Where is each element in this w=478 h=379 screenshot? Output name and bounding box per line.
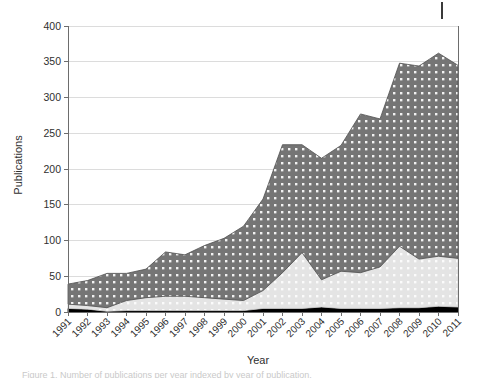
x-tick-label: 1991 bbox=[50, 315, 74, 339]
y-tick-label: 200 bbox=[43, 163, 61, 175]
y-tick-label: 400 bbox=[43, 20, 61, 32]
x-tick-label: 2002 bbox=[264, 315, 288, 339]
figure-container: 050100150200250300350400 199119921993199… bbox=[0, 0, 478, 379]
x-tick-group: 1991199219931994199519961997199819992000… bbox=[50, 312, 464, 339]
x-tick-label: 2011 bbox=[440, 315, 463, 338]
x-tick-label: 2007 bbox=[362, 315, 386, 339]
x-axis-title: Year bbox=[247, 354, 270, 366]
x-tick-label: 2006 bbox=[342, 315, 366, 339]
x-tick-label: 1997 bbox=[167, 315, 191, 339]
x-tick-label: 2004 bbox=[303, 315, 327, 339]
chart-plot-area: 050100150200250300350400 199119921993199… bbox=[0, 0, 478, 379]
y-tick-label: 100 bbox=[43, 234, 61, 246]
x-tick-label: 1996 bbox=[147, 315, 171, 339]
x-tick-label: 1999 bbox=[206, 315, 230, 339]
y-tick-label: 50 bbox=[49, 270, 61, 282]
x-tick-label: 2001 bbox=[245, 315, 269, 339]
cropped-caption: Figure 1. Number of publications per yea… bbox=[22, 371, 458, 378]
area-series-group bbox=[68, 53, 458, 312]
x-tick-label: 2010 bbox=[420, 315, 444, 339]
x-tick-label: 2005 bbox=[323, 315, 347, 339]
x-tick-label: 1998 bbox=[186, 315, 210, 339]
x-tick-label: 1993 bbox=[89, 315, 113, 339]
x-tick-label: 2003 bbox=[284, 315, 308, 339]
y-tick-label: 350 bbox=[43, 55, 61, 67]
x-tick-label: 2009 bbox=[401, 315, 425, 339]
caption-text: Figure 1. Number of publications per yea… bbox=[22, 371, 458, 378]
x-tick-label: 1995 bbox=[128, 315, 152, 339]
stacked-area-chart: 050100150200250300350400 199119921993199… bbox=[0, 0, 478, 379]
y-tick-label: 0 bbox=[55, 306, 61, 318]
y-tick-group: 050100150200250300350400 bbox=[43, 20, 68, 318]
x-tick-label: 2000 bbox=[225, 315, 249, 339]
y-tick-label: 150 bbox=[43, 198, 61, 210]
x-tick-label: 1994 bbox=[108, 315, 132, 339]
y-axis-title: Publications bbox=[12, 135, 24, 195]
y-tick-label: 250 bbox=[43, 127, 61, 139]
y-tick-label: 300 bbox=[43, 91, 61, 103]
x-tick-label: 2008 bbox=[381, 315, 405, 339]
x-tick-label: 1992 bbox=[69, 315, 93, 339]
